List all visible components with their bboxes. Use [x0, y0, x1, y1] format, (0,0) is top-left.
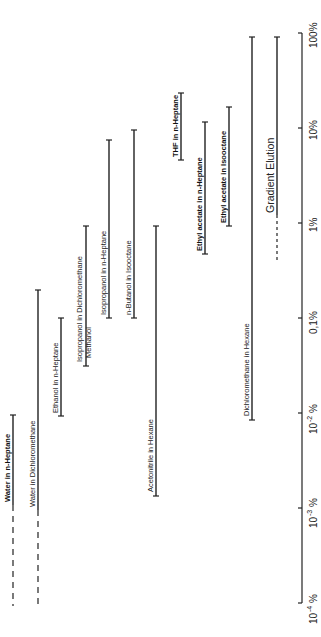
- tick-1e-3: 10 -3 %: [306, 498, 319, 528]
- label-gradient: Gradient Elution: [264, 138, 276, 213]
- svg-text:%: %: [308, 594, 319, 603]
- svg-text:10: 10: [308, 612, 319, 624]
- svg-text:%: %: [308, 404, 319, 413]
- solvent-range-chart: Water in n-Heptane Water in Dichlorometh…: [0, 0, 321, 637]
- svg-text:%: %: [308, 498, 319, 507]
- label-ipa-dcm: Isopropanol in Dichloromethane: [75, 256, 84, 362]
- tick-1e-4: 10 -4 %: [306, 594, 319, 624]
- label-etoac-heptane: Ethyl acetate in n-Heptane: [195, 157, 204, 251]
- label-dcm-hexane: Dichloromethane in Hexane: [242, 323, 251, 416]
- label-etoac-isooctane: Ethyl acetate in Isooctane: [219, 131, 228, 223]
- tick-0-1: 0,1%: [308, 311, 319, 334]
- svg-text:10: 10: [308, 516, 319, 528]
- svg-text:-3: -3: [306, 510, 313, 516]
- label-ethanol: Ethanol in n-Heptane: [51, 343, 60, 413]
- label-water-heptane: Water in n-Heptane: [3, 434, 12, 502]
- svg-text:10: 10: [308, 422, 319, 434]
- tick-10: 10%: [308, 120, 319, 140]
- tick-100: 100%: [308, 22, 319, 48]
- svg-text:-2: -2: [306, 416, 313, 422]
- label-methanol: Methanol: [84, 327, 93, 358]
- tick-1e-2: 10 -2 %: [306, 404, 319, 434]
- label-butanol: n-Butanol in Isooctane: [124, 240, 133, 315]
- label-acn: Acetonitrile in Hexane: [146, 419, 155, 492]
- tick-1: 1%: [308, 217, 319, 232]
- svg-text:-4: -4: [306, 606, 313, 612]
- label-ipa-heptane: Isopropanol in n-Heptane: [99, 231, 108, 315]
- label-thf: THF in n-Heptane: [171, 95, 180, 157]
- label-water-dcm: Water in Dichloromethane: [28, 421, 37, 507]
